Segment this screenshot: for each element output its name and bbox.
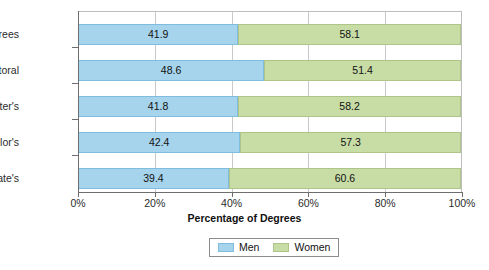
bar-segment-women[interactable]: 57.3	[240, 132, 461, 153]
category-tick	[72, 155, 78, 156]
bar-segment-men[interactable]: 48.6	[78, 60, 264, 81]
bar-row: 42.4 57.3	[78, 132, 461, 153]
bar-value-label: 48.6	[161, 65, 181, 76]
bar-value-label: 41.9	[148, 29, 168, 40]
bar-value-label: 42.4	[149, 137, 169, 148]
bar-row: 41.8 58.2	[78, 96, 461, 117]
legend-swatch-women-icon	[273, 243, 289, 252]
x-tick-label-40: 40%	[202, 198, 262, 209]
bar-value-label: 58.2	[339, 101, 359, 112]
bar-row: 48.6 51.4	[78, 60, 461, 81]
legend-label-men: Men	[239, 242, 259, 253]
bar-value-label: 58.1	[340, 29, 360, 40]
bar-segment-men[interactable]: 41.8	[78, 96, 238, 117]
category-label-bachelors: Bachelor's	[0, 137, 19, 148]
bar-value-label: 60.6	[335, 173, 355, 184]
category-tick	[72, 47, 78, 48]
category-label-masters: Master's	[0, 101, 19, 112]
category-tick	[72, 83, 78, 84]
legend-label-women: Women	[294, 242, 330, 253]
bar-value-label: 41.8	[148, 101, 168, 112]
bar-segment-women[interactable]: 60.6	[229, 168, 461, 189]
bar-row: 39.4 60.6	[78, 168, 461, 189]
bar-value-label: 39.4	[143, 173, 163, 184]
bar-segment-women[interactable]: 51.4	[264, 60, 461, 81]
category-label-associates: Associate's	[0, 173, 19, 184]
bar-value-label: 51.4	[352, 65, 372, 76]
category-axis-line	[78, 192, 463, 193]
bar-segment-men[interactable]: 39.4	[78, 168, 229, 189]
category-label-all-degrees: All Degrees	[0, 29, 19, 40]
bar-segment-men[interactable]: 41.9	[78, 24, 238, 45]
value-axis-line	[78, 11, 79, 192]
legend: Men Women	[209, 238, 339, 257]
bar-segment-women[interactable]: 58.2	[238, 96, 461, 117]
x-tick-label-0: 0%	[48, 198, 108, 209]
x-tick-label-100: 100%	[432, 198, 489, 209]
plot-area: 41.9 58.1 48.6 51.4 41.8 58.2	[78, 11, 462, 192]
category-tick	[72, 119, 78, 120]
x-tick-label-80: 80%	[355, 198, 415, 209]
legend-swatch-men-icon	[218, 243, 234, 252]
bar-segment-men[interactable]: 42.4	[78, 132, 240, 153]
bar-value-label: 57.3	[340, 137, 360, 148]
category-label-doctoral: Doctoral	[0, 65, 19, 76]
percentage-of-degrees-chart: 41.9 58.1 48.6 51.4 41.8 58.2	[0, 0, 489, 270]
x-tick-label-20: 20%	[125, 198, 185, 209]
x-axis-title: Percentage of Degrees	[0, 212, 489, 224]
legend-item-women[interactable]: Women	[273, 242, 330, 253]
x-tick-label-60: 60%	[278, 198, 338, 209]
bar-segment-women[interactable]: 58.1	[238, 24, 461, 45]
legend-item-men[interactable]: Men	[218, 242, 259, 253]
bar-row: 41.9 58.1	[78, 24, 461, 45]
